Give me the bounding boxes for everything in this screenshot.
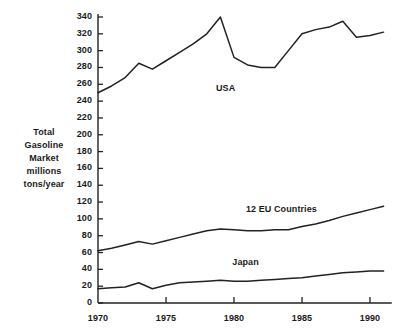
y-tick-label: 20 bbox=[60, 280, 92, 290]
series-label-12-eu-countries: 12 EU Countries bbox=[246, 204, 317, 214]
y-tick-label: 340 bbox=[60, 11, 92, 21]
series-label-usa: USA bbox=[216, 83, 235, 93]
y-tick-label: 320 bbox=[60, 28, 92, 38]
y-tick-label: 160 bbox=[60, 162, 92, 172]
x-tick-label: 1985 bbox=[282, 313, 322, 323]
x-tick-label: 1975 bbox=[146, 313, 186, 323]
y-tick-label: 280 bbox=[60, 61, 92, 71]
y-tick-label: 100 bbox=[60, 213, 92, 223]
gasoline-market-line-chart: Total Gasoline Market millions tons/year… bbox=[0, 0, 399, 334]
y-tick-label: 140 bbox=[60, 179, 92, 189]
y-tick-label: 120 bbox=[60, 196, 92, 206]
x-tick-label: 1980 bbox=[214, 313, 254, 323]
x-tick-label: 1970 bbox=[78, 313, 118, 323]
x-tick-label: 1990 bbox=[350, 313, 390, 323]
series-label-japan: Japan bbox=[232, 257, 259, 267]
y-tick-label: 180 bbox=[60, 146, 92, 156]
y-tick-label: 220 bbox=[60, 112, 92, 122]
y-tick-label: 300 bbox=[60, 45, 92, 55]
y-tick-label: 40 bbox=[60, 263, 92, 273]
y-tick-label: 0 bbox=[60, 297, 92, 307]
y-tick-label: 200 bbox=[60, 129, 92, 139]
chart-series-lines bbox=[98, 17, 384, 289]
y-tick-label: 80 bbox=[60, 230, 92, 240]
y-tick-label: 60 bbox=[60, 247, 92, 257]
y-tick-label: 260 bbox=[60, 78, 92, 88]
y-tick-label: 240 bbox=[60, 95, 92, 105]
